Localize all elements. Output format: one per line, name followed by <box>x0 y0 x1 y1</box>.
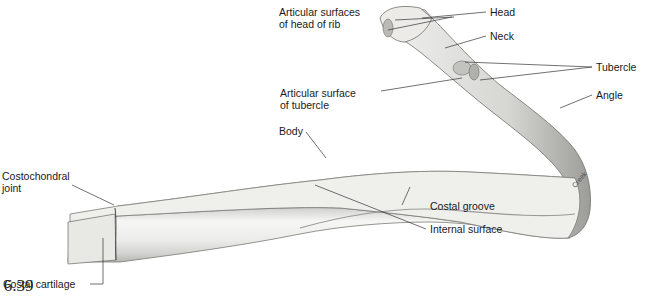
label-line: joint <box>2 182 70 194</box>
label-costal-groove: Costal groove <box>430 200 495 212</box>
costal-cartilage <box>68 214 116 264</box>
label-angle: Angle <box>596 89 623 101</box>
label-head: Head <box>490 6 515 18</box>
label-line: of tubercle <box>280 99 356 111</box>
label-neck: Neck <box>490 30 514 42</box>
label-articular-surfaces-head: Articular surfaces of head of rib <box>279 6 360 30</box>
figure-caption: e 6.39 <box>0 276 34 296</box>
label-costochondral-joint: Costochondral joint <box>2 170 70 194</box>
label-body: Body <box>279 125 303 137</box>
label-line: Articular surface <box>280 87 356 99</box>
label-line: Articular surfaces <box>279 6 360 18</box>
rib-illustration: Articular surfaces of head of rib Head N… <box>0 0 649 297</box>
label-line: Costochondral <box>2 170 70 182</box>
label-line: of head of rib <box>279 18 360 30</box>
label-articular-surface-tubercle: Articular surface of tubercle <box>280 87 356 111</box>
rib-drawing <box>0 0 649 297</box>
label-internal-surface: Internal surface <box>430 223 502 235</box>
label-tubercle: Tubercle <box>596 61 636 73</box>
